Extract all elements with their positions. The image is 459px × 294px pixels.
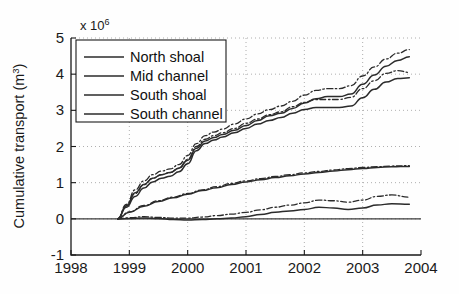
series-line: [118, 166, 410, 219]
legend-label: North shoal: [130, 49, 204, 65]
y-axis-tick-labels: -1012345: [51, 29, 64, 263]
x-tick-label: 1999: [113, 259, 146, 276]
y-tick-label: 3: [56, 101, 64, 118]
x-axis-tick-labels: 1998199920002001200220032004: [54, 259, 437, 276]
figure-container: 1998199920002001200220032004 -1012345 x …: [0, 0, 459, 294]
x-tick-label: 2001: [229, 259, 262, 276]
legend: North shoalMid channelSouth shoalSouth c…: [76, 40, 226, 122]
x-tick-label: 2000: [171, 259, 204, 276]
legend-label: Mid channel: [130, 68, 208, 84]
y-tick-label: 0: [56, 210, 64, 227]
legend-label: South shoal: [130, 87, 207, 103]
x-tick-label: 2003: [346, 259, 379, 276]
series-line: [118, 195, 410, 219]
legend-label: South channel: [130, 106, 223, 122]
x-tick-label: 2004: [404, 259, 437, 276]
y-tick-label: -1: [51, 246, 64, 263]
y-tick-label: 4: [56, 65, 64, 82]
y-tick-label: 5: [56, 29, 64, 46]
x-tick-label: 2002: [288, 259, 321, 276]
cumulative-transport-chart: 1998199920002001200220032004 -1012345 x …: [0, 0, 459, 294]
y-axis-label: Cumulative transport (m3): [10, 64, 27, 229]
axis-multiplier-label: x 106: [80, 17, 110, 33]
y-tick-label: 1: [56, 174, 64, 191]
y-tick-label: 2: [56, 138, 64, 155]
